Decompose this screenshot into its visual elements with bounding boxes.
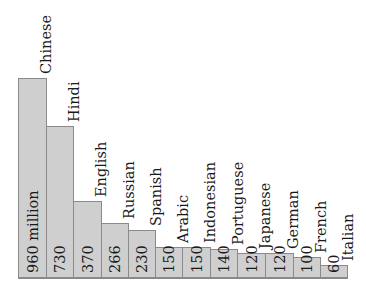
bar-value-label: 960 million xyxy=(25,190,41,273)
category-label-french: French xyxy=(313,201,329,253)
category-label-chinese: Chinese xyxy=(38,15,54,74)
bar-value-label: 230 xyxy=(134,245,150,273)
bar-value-label: 370 xyxy=(80,245,96,273)
category-label-italian: Italian xyxy=(340,214,356,261)
bar-value-label: 730 xyxy=(52,245,68,273)
bar-arabic: 150 xyxy=(155,247,183,278)
bar-hindi: 730 xyxy=(46,126,74,278)
bar-value-label: 150 xyxy=(161,245,177,273)
category-label-hindi: Hindi xyxy=(66,81,82,122)
category-label-indonesian: Indonesian xyxy=(202,162,218,243)
bar-french: 100 xyxy=(293,257,321,278)
bar-value-label: 266 xyxy=(107,245,123,273)
bar-russian: 266 xyxy=(101,223,129,278)
category-label-english: English xyxy=(93,142,109,197)
category-label-arabic: Arabic xyxy=(175,195,191,243)
bar-chinese: 960 million xyxy=(18,78,47,278)
bar-value-label: 120 xyxy=(272,245,288,273)
bar-value-label: 150 xyxy=(189,245,205,273)
category-label-portuguese: Portuguese xyxy=(230,162,246,245)
category-label-spanish: Spanish xyxy=(148,167,164,226)
bar-english: 370 xyxy=(73,201,102,278)
baseline xyxy=(18,277,348,279)
bar-value-label: 140 xyxy=(216,245,232,273)
bar-indonesian: 150 xyxy=(182,247,211,278)
category-label-japanese: Japanese xyxy=(257,183,273,249)
bar-value-label: 120 xyxy=(244,245,260,273)
bar-spanish: 230 xyxy=(128,230,156,278)
category-label-russian: Russian xyxy=(121,161,137,219)
bar-japanese: 120 xyxy=(237,253,266,278)
language-speakers-bar-chart: 960 millionChinese730Hindi370English266R… xyxy=(0,0,366,288)
bar-portuguese: 140 xyxy=(210,249,238,278)
bar-german: 120 xyxy=(265,253,294,278)
category-label-german: German xyxy=(285,190,301,249)
